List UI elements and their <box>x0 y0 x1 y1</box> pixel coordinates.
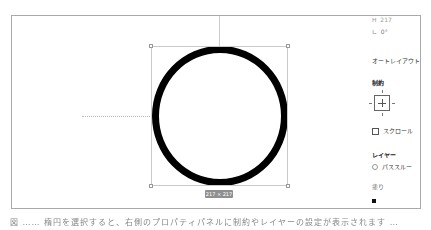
distance-guide-horizontal <box>82 116 152 117</box>
constraints-heading: 制約 <box>372 78 422 87</box>
constraint-left-tick[interactable] <box>369 103 372 104</box>
blend-mode-value: パススルー <box>382 163 412 170</box>
distance-guide-vertical <box>219 16 220 46</box>
selection-bounds[interactable] <box>151 46 288 186</box>
blend-mode-icon <box>372 164 378 170</box>
scroll-checkbox-row[interactable]: スクロール <box>372 126 422 135</box>
scroll-checkbox[interactable] <box>372 128 379 135</box>
editor-window: 217 × 217 H 217 ∟ 0° オートレイアウト 制約 スクロール レ… <box>11 15 421 209</box>
constraint-bottom-tick[interactable] <box>382 113 383 116</box>
height-label: H <box>372 16 377 23</box>
resize-handle-bottom-right[interactable] <box>286 184 290 188</box>
layer-heading: レイヤー <box>372 150 422 159</box>
resize-handle-bottom-left[interactable] <box>149 184 153 188</box>
constraint-top-tick[interactable] <box>382 90 383 93</box>
blend-mode-select[interactable]: パススルー <box>372 162 422 171</box>
height-field[interactable]: H 217 <box>372 16 422 23</box>
fill-color-swatch[interactable] <box>372 199 376 203</box>
canvas[interactable]: 217 × 217 <box>12 16 362 208</box>
scroll-label: スクロール <box>383 127 413 134</box>
constraints-widget[interactable] <box>374 95 390 111</box>
fill-heading: 塗り <box>372 182 422 191</box>
figure-caption: 図 …… 楕円を選択すると、右側のプロパティパネルに制約やレイヤーの設定が表示さ… <box>10 216 425 230</box>
size-badge: 217 × 217 <box>205 190 233 198</box>
rotation-value: 0° <box>381 28 388 35</box>
plus-icon-v <box>382 99 383 107</box>
constraint-right-tick[interactable] <box>392 103 395 104</box>
rotation-icon: ∟ <box>372 28 377 35</box>
resize-handle-top-left[interactable] <box>149 44 153 48</box>
height-value: 217 <box>380 16 391 23</box>
rotation-field[interactable]: ∟ 0° <box>372 28 422 35</box>
resize-handle-top-right[interactable] <box>286 44 290 48</box>
auto-layout-button[interactable]: オートレイアウト <box>372 56 422 65</box>
properties-panel: H 217 ∟ 0° オートレイアウト 制約 スクロール レイヤー パススルー … <box>366 16 422 208</box>
